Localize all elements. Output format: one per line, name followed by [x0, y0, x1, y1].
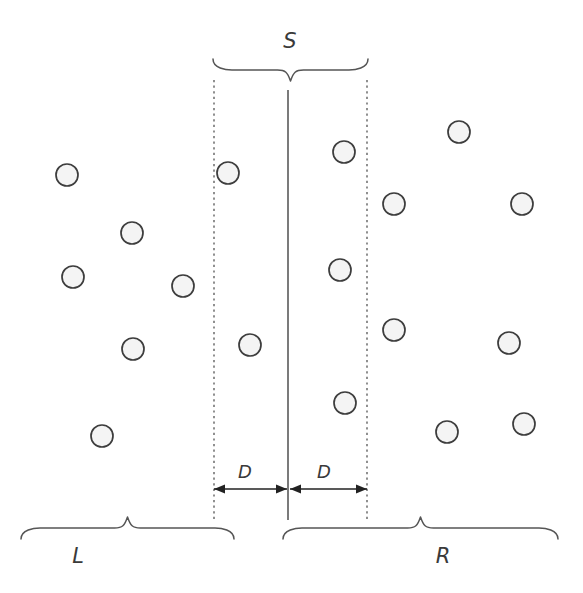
label-dimension-right: D: [317, 461, 331, 482]
diagram-canvas: S L R D D: [0, 0, 583, 593]
data-point: [511, 193, 533, 215]
label-dimension-left: D: [238, 461, 252, 482]
data-point: [436, 421, 458, 443]
arrowhead-left-start: [214, 484, 225, 493]
label-span-s: S: [283, 29, 296, 53]
data-point: [122, 338, 144, 360]
split-point-diagram: S L R D D: [0, 0, 583, 593]
label-region-r: R: [436, 544, 451, 568]
data-point: [217, 162, 239, 184]
data-point-group: [56, 121, 535, 447]
dimension-arrow-left: [214, 484, 287, 493]
data-point: [513, 413, 535, 435]
data-point: [383, 319, 405, 341]
data-point: [62, 266, 84, 288]
data-point: [498, 332, 520, 354]
dimension-arrow-right: [290, 484, 367, 493]
data-point: [334, 392, 356, 414]
brace-region-l: [21, 517, 234, 539]
brace-span-s: [213, 59, 368, 81]
arrowhead-right-end: [356, 484, 367, 493]
data-point: [56, 164, 78, 186]
data-point: [172, 275, 194, 297]
arrowhead-right-start: [290, 484, 301, 493]
data-point: [383, 193, 405, 215]
label-region-l: L: [72, 544, 84, 568]
brace-region-r: [283, 517, 558, 539]
data-point: [121, 222, 143, 244]
data-point: [333, 141, 355, 163]
data-point: [91, 425, 113, 447]
data-point: [329, 259, 351, 281]
arrowhead-left-end: [276, 484, 287, 493]
data-point: [448, 121, 470, 143]
data-point: [239, 334, 261, 356]
